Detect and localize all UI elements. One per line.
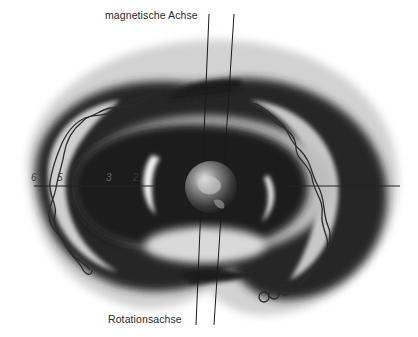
- scale-mark-3: 3: [106, 172, 112, 183]
- scale-mark-2: 2: [133, 172, 139, 183]
- magnetic-axis-label: magnetische Achse: [105, 9, 198, 21]
- van-allen-diagram: magnetische Achse Rotationsachse 6 5 3 2: [0, 0, 418, 337]
- scale-mark-6: 6: [31, 172, 37, 183]
- rotation-axis-label: Rotationsachse: [108, 313, 182, 325]
- radiation-belt-illustration: [0, 0, 418, 337]
- lower-light-lobe: [145, 227, 265, 263]
- earth-globe: [185, 161, 237, 213]
- scale-mark-5: 5: [57, 172, 63, 183]
